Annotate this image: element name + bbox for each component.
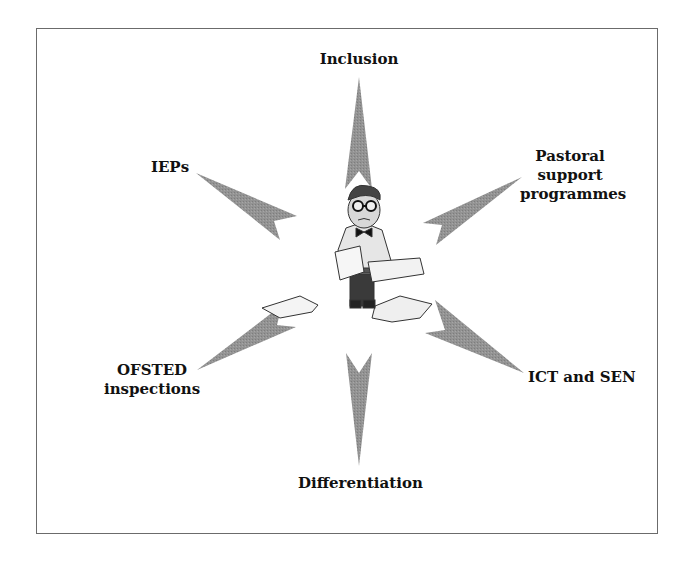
arrow-differentiation-icon <box>346 353 372 466</box>
label-ict-and-sen: ICT and SEN <box>528 368 632 387</box>
arrow-pastoral-icon <box>423 177 522 245</box>
label-inclusion: Inclusion <box>318 50 400 69</box>
cartoon-man-icon <box>262 185 432 322</box>
arrow-ieps-icon <box>196 173 297 240</box>
arrow-ict-icon <box>425 300 524 373</box>
label-differentiation: Differentiation <box>298 474 422 493</box>
label-ieps: IEPs <box>146 158 194 177</box>
label-pastoral-support: Pastoral support programmes <box>520 147 620 204</box>
arrow-inclusion-icon <box>345 77 372 189</box>
label-ofsted-inspections: OFSTED inspections <box>104 361 200 399</box>
